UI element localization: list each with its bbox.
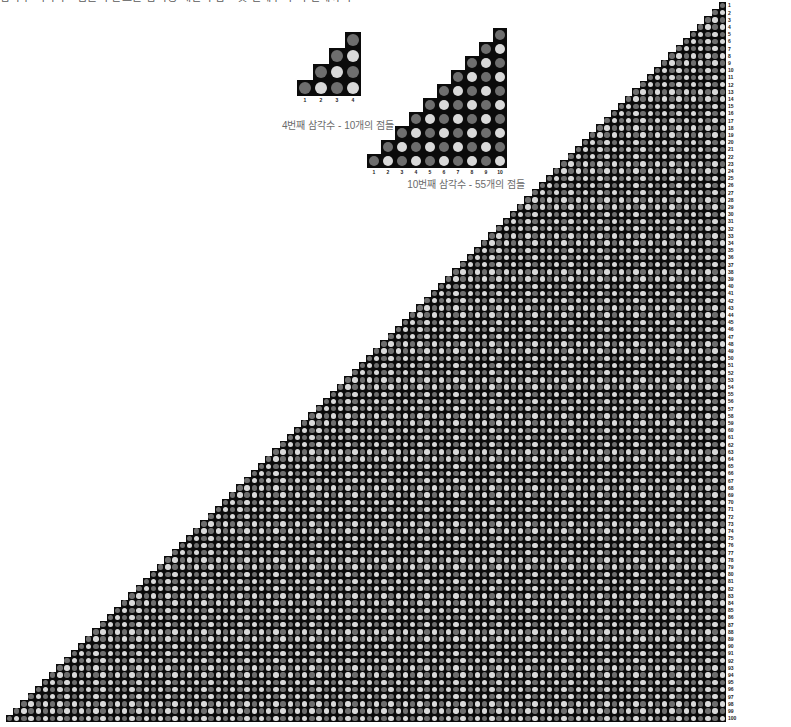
dot [525,435,530,440]
dot-cell [352,405,359,412]
dot [648,212,653,217]
dot [640,615,645,620]
dot-cell [654,96,661,103]
dot [187,622,192,627]
row-axis-label: 86 [728,614,744,620]
dot-cell [568,218,575,225]
dot-cell [510,319,517,326]
dot-cell [467,672,474,679]
dot-cell [647,110,654,117]
dot [619,298,624,303]
dot-cell [301,600,308,607]
dot [604,291,609,296]
dot [504,644,509,649]
dot [338,701,343,706]
dot [324,492,329,497]
dot-cell [676,549,683,556]
dot-cell [337,600,344,607]
dot-cell [236,571,243,578]
dot [576,428,581,433]
dot [388,708,393,713]
dot-cell [640,319,647,326]
dot [295,543,300,548]
dot [244,543,249,548]
dot [604,658,609,663]
dot [273,586,278,591]
dot [439,298,444,303]
dot [648,204,653,209]
dot-cell [467,384,474,391]
dot [669,96,674,101]
dot-cell [712,103,719,110]
dot-cell [445,304,452,311]
dot [612,226,617,231]
dot [201,629,206,634]
dot-cell [683,657,690,664]
dot-cell [647,340,654,347]
dot [266,521,271,526]
dot [684,701,689,706]
dot [662,147,667,152]
dot [540,183,545,188]
dot [280,485,285,490]
dot-cell [488,679,495,686]
dot-cell [438,643,445,650]
dot [396,384,401,389]
dot [684,212,689,217]
dot-cell [359,362,366,369]
dot-cell [697,31,704,38]
dot-cell [510,398,517,405]
dot [633,284,638,289]
dot-cell [222,528,229,535]
dot [640,240,645,245]
dot [676,197,681,202]
dot-cell [308,484,315,491]
dot-cell [42,679,49,686]
dot-cell [467,427,474,434]
dot [165,687,170,692]
dot [612,600,617,605]
dot [540,694,545,699]
dot-cell [611,499,618,506]
dot-cell [625,686,632,693]
dot-cell [683,420,690,427]
dot [633,183,638,188]
dot [691,60,696,65]
dot [482,572,487,577]
dot [396,413,401,418]
dot [633,478,638,483]
dot [583,334,588,339]
dot [489,672,494,677]
dot [345,687,350,692]
dot [244,572,249,577]
dot-cell [704,520,711,527]
dot-cell [640,492,647,499]
dot-cell [193,535,200,542]
dot [453,413,458,418]
row-axis-label: 62 [728,442,744,448]
dot [640,348,645,353]
dot-cell [668,369,675,376]
dot-cell [524,355,531,362]
dot-cell [496,326,503,333]
dot [712,564,717,569]
dot [324,586,329,591]
dot-cell [582,333,589,340]
dot-cell [640,708,647,715]
dot [511,334,516,339]
dot [669,636,674,641]
dot-cell [532,189,539,196]
dot-cell [474,628,481,635]
dot [388,464,393,469]
dot-cell [352,398,359,405]
dot [511,305,516,310]
dot [648,500,653,505]
dot [482,363,487,368]
dot-cell [294,535,301,542]
dot-cell [395,578,402,585]
dot [446,320,451,325]
dot [590,262,595,267]
dot-cell [323,470,330,477]
dot-cell [690,81,697,88]
dot [288,478,293,483]
